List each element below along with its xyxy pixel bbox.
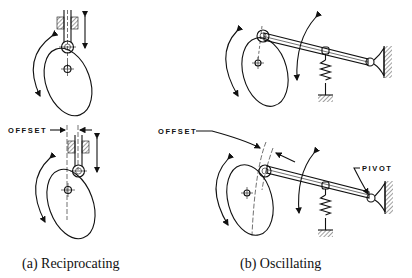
guide-block-right [71,17,78,29]
reciprocating-centered [33,10,100,122]
guide-block-left [57,17,64,29]
caption-b: (b) Oscillating [240,256,321,272]
spring [321,60,331,80]
pivot-label: PIVOT [362,164,393,173]
offset-label-a: OFFSET [8,126,47,135]
offset-label-b: OFFSET [158,127,197,136]
caption-a: (a) Reciprocating [22,256,120,272]
reciprocating-offset: OFFSET [8,125,104,245]
cam [35,42,100,123]
oscillating-offset: OFFSET PIVOT [158,127,393,240]
cam-follower-diagram: OFFSET (a) Reciprocating [0,0,412,278]
oscillating-centered [226,17,392,112]
rotation-arrow [33,36,52,96]
